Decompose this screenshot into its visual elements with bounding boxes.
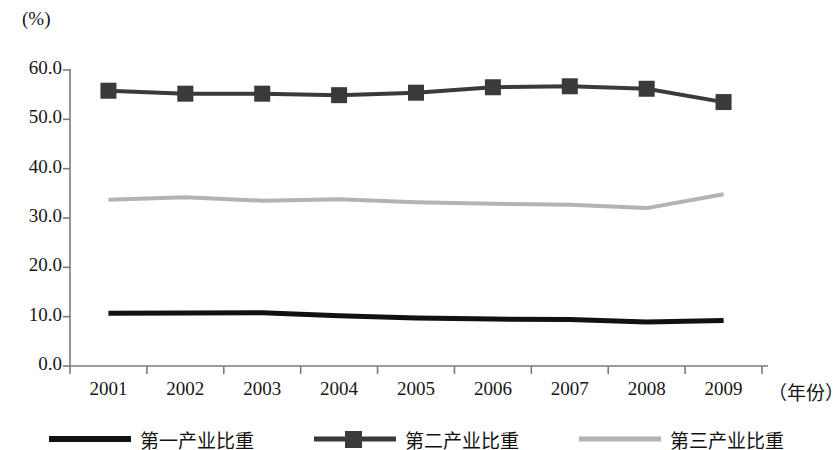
- legend-item[interactable]: 第三产业比重: [577, 426, 784, 450]
- series-marker: [100, 83, 116, 99]
- y-tick-label: 30.0: [0, 205, 62, 227]
- series-marker: [254, 86, 270, 102]
- chart-legend: 第一产业比重第二产业比重第三产业比重: [0, 424, 831, 450]
- x-tick-label: 2001: [73, 378, 143, 400]
- x-tick-label: 2007: [535, 378, 605, 400]
- legend-swatch-1: [47, 429, 133, 449]
- y-tick-label: 20.0: [0, 254, 62, 276]
- series-marker: [177, 86, 193, 102]
- x-tick-label: 2003: [227, 378, 297, 400]
- x-tick-label: 2006: [458, 378, 528, 400]
- series-marker: [485, 79, 501, 95]
- series-line-3: [108, 194, 723, 208]
- legend-item[interactable]: 第一产业比重: [47, 426, 254, 450]
- x-tick-label: 2005: [381, 378, 451, 400]
- series-marker: [408, 85, 424, 101]
- x-tick-label: 2008: [612, 378, 682, 400]
- x-tick-label: 2009: [689, 378, 759, 400]
- legend-item[interactable]: 第二产业比重: [312, 426, 519, 450]
- legend-swatch-2: [312, 429, 398, 449]
- legend-label: 第三产业比重: [670, 426, 784, 450]
- series-marker: [639, 81, 655, 97]
- x-tick-label: 2002: [150, 378, 220, 400]
- chart-axes: [63, 69, 768, 374]
- chart-series: [100, 78, 731, 322]
- series-marker: [716, 94, 732, 110]
- y-tick-label: 0.0: [0, 353, 62, 375]
- series-line-1: [108, 313, 723, 322]
- y-tick-label: 50.0: [0, 106, 62, 128]
- series-marker: [331, 87, 347, 103]
- series-marker: [562, 78, 578, 94]
- legend-label: 第二产业比重: [405, 426, 519, 450]
- legend-label: 第一产业比重: [140, 426, 254, 450]
- y-tick-label: 10.0: [0, 304, 62, 326]
- x-tick-label: 2004: [304, 378, 374, 400]
- y-tick-label: 60.0: [0, 57, 62, 79]
- y-tick-label: 40.0: [0, 156, 62, 178]
- x-axis-unit-label: （年份）: [768, 378, 836, 405]
- legend-swatch-3: [577, 429, 663, 449]
